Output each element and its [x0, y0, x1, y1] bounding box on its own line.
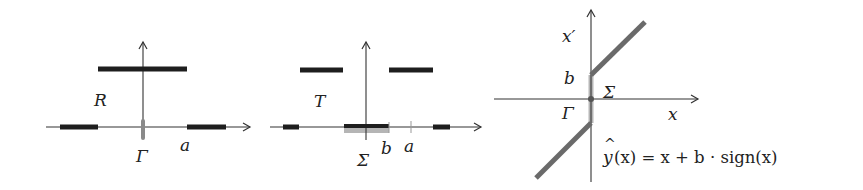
tick-label-a: a — [180, 135, 190, 155]
set-label-r: R — [93, 90, 107, 110]
tick-label-b: b — [381, 138, 392, 158]
b-label: b — [564, 68, 575, 88]
sigma-label: Σ — [602, 82, 616, 102]
formula: ^ y (x) = x + b · sign(x) — [602, 136, 778, 167]
origin-point — [588, 96, 594, 102]
panel-r: R Γ a — [46, 42, 250, 166]
tick-label-a: a — [404, 136, 414, 156]
formula-rhs: (x) = x + b · sign(x) — [614, 148, 778, 167]
x-axis-label: x — [668, 104, 678, 124]
gamma-label: Γ — [135, 146, 149, 166]
gamma-label: Γ — [561, 103, 575, 123]
diagram-canvas: R Γ a T Σ b a x′ b Σ Γ x ^ y (x) — [0, 0, 863, 190]
panel-t: T Σ b a — [270, 42, 481, 170]
graph-upper-branch — [591, 22, 645, 75]
set-label-t: T — [314, 91, 327, 111]
panel-graph: x′ b Σ Γ x ^ y (x) = x + b · sign(x) — [494, 10, 778, 182]
graph-lower-branch — [536, 123, 591, 178]
sigma-label: Σ — [356, 150, 370, 170]
formula-lhs: y — [602, 147, 613, 167]
y-axis-label: x′ — [562, 26, 576, 46]
